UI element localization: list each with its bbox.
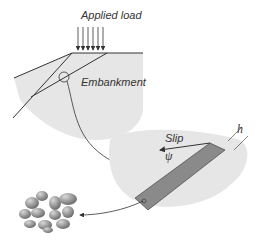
- applied-load-arrows: [78, 27, 103, 50]
- soil-grains: [19, 191, 77, 233]
- embankment-soil: [14, 53, 143, 140]
- embankment-label: Embankment: [81, 76, 147, 88]
- h-label: h: [237, 122, 243, 136]
- psi-label: ψ: [165, 149, 173, 163]
- grain-leader-line: [80, 201, 143, 215]
- embankment-slip-diagram: Applied load Embankment Slip ψ h: [0, 0, 258, 244]
- slip-label: Slip: [165, 132, 183, 144]
- applied-load-label: Applied load: [80, 9, 142, 21]
